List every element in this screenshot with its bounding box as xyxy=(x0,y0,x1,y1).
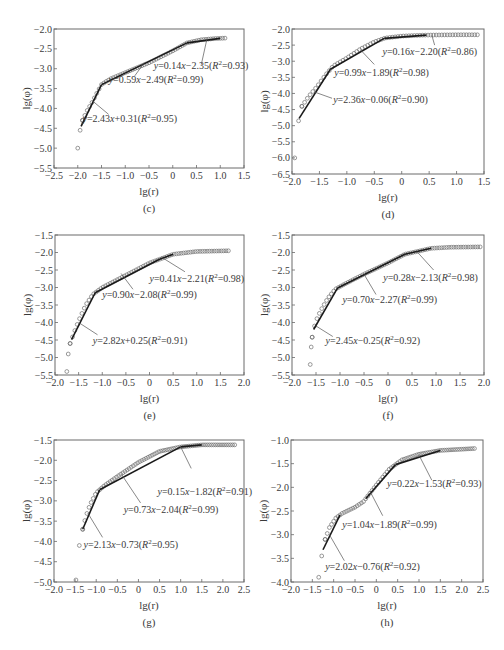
x-tick-label: 1.5 xyxy=(238,170,251,181)
data-point xyxy=(74,578,78,582)
fit-lines: y=2.82x+0.25(R2=0.91)y=0.90x−2.08(R2=0.9… xyxy=(72,254,245,346)
fit-equation-label: y=0.41x−2.21(R2=0.98) xyxy=(149,272,245,285)
fit-equation-label: y=0.73x−2.04(R2=0.99) xyxy=(123,503,219,516)
x-tick-label: −0.5 xyxy=(117,377,135,388)
x-tick-label: 0 xyxy=(147,377,152,388)
y-tick-label: −5.0 xyxy=(35,352,53,363)
y-tick-label: −4.5 xyxy=(34,556,52,567)
data-points xyxy=(317,447,477,580)
fit-equation-label: y=2.82x+0.25(R2=0.91) xyxy=(92,334,188,347)
y-tick-label: −4.0 xyxy=(271,577,289,588)
data-points xyxy=(65,249,230,374)
y-tick-label: −2.5 xyxy=(34,43,52,54)
y-tick-label: −4.5 xyxy=(35,335,53,346)
x-axis-ticks: −2.0−1.5−1.0−0.500.51.01.52.02.5 xyxy=(282,579,489,595)
data-point xyxy=(227,249,231,253)
data-point xyxy=(310,335,314,339)
fit-line-1 xyxy=(72,293,96,340)
fit-lines: y=2.36x−0.06(R2=0.90)y=0.99x−1.89(R2=0.9… xyxy=(299,35,477,118)
data-point xyxy=(308,93,312,97)
y-tick-label: −2.0 xyxy=(272,24,290,35)
y-tick-label: −1.5 xyxy=(272,230,290,241)
x-tick-label: 1.0 xyxy=(450,176,463,187)
y-tick-label: −5.5 xyxy=(272,370,290,381)
x-axis-label: lg(r) xyxy=(140,392,160,405)
y-tick-label: −3.5 xyxy=(271,553,289,564)
leader-line xyxy=(88,513,103,537)
y-tick-label: −5.0 xyxy=(272,352,290,363)
fit-lines: y=2.02x−0.76(R2=0.92)y=1.04x−1.89(R2=0.9… xyxy=(323,450,482,573)
x-tick-label: 2.0 xyxy=(455,584,468,595)
y-tick-label: −3.0 xyxy=(271,529,289,540)
x-tick-label: −1.5 xyxy=(307,377,325,388)
leader-line xyxy=(417,251,434,270)
x-tick-label: 1.0 xyxy=(174,584,187,595)
fit-lines: y=2.45x−0.25(R2=0.92)y=0.70x−2.27(R2=0.9… xyxy=(314,248,478,346)
x-tick-label: −0.5 xyxy=(346,584,364,595)
fit-equation-label: y=2.43x+0.31(R2=0.95) xyxy=(82,112,178,125)
y-tick-label: −3.5 xyxy=(34,516,52,527)
fit-equation-label: y=0.14x−2.35(R2=0.93) xyxy=(153,59,249,72)
chart-panel-h: −2.0−1.5−1.0−0.500.51.01.52.02.5−1.0−1.5… xyxy=(257,435,489,630)
x-axis-label: lg(r) xyxy=(139,599,159,612)
y-tick-label: −1.5 xyxy=(34,435,52,446)
data-point xyxy=(78,128,82,132)
data-point xyxy=(68,342,72,346)
plot-frame xyxy=(54,29,244,168)
x-tick-label: −1.0 xyxy=(331,377,349,388)
panel-caption: (f) xyxy=(383,409,394,422)
data-point xyxy=(323,538,327,542)
data-points xyxy=(308,245,482,366)
leader-line xyxy=(122,474,141,502)
chart-panel-c: −2.5−2.0−1.5−1.0−0.500.51.01.5−2.0−2.5−3… xyxy=(20,24,250,216)
y-tick-label: −2.0 xyxy=(271,482,289,493)
y-tick-label: −4.0 xyxy=(34,536,52,547)
fit-equation-label: y=0.70x−2.27(R2=0.99) xyxy=(341,293,437,306)
x-tick-label: 1.0 xyxy=(430,377,443,388)
y-tick-label: −1.0 xyxy=(271,435,289,446)
data-point xyxy=(308,363,312,367)
y-tick-label: −4.0 xyxy=(272,317,290,328)
x-tick-label: 0 xyxy=(374,584,379,595)
y-tick-label: −4.5 xyxy=(272,104,290,115)
data-point xyxy=(77,544,81,548)
y-tick-label: −3.0 xyxy=(34,63,52,74)
data-point xyxy=(300,104,304,108)
y-axis-label: lg(φ) xyxy=(20,500,33,523)
data-point xyxy=(320,554,324,558)
leader-line xyxy=(161,257,185,272)
leader-line xyxy=(181,447,192,469)
y-tick-label: −3.0 xyxy=(35,282,53,293)
x-tick-label: 0.5 xyxy=(153,584,166,595)
y-tick-label: −1.5 xyxy=(271,458,289,469)
x-tick-label: 1.5 xyxy=(454,377,467,388)
x-tick-label: 1.5 xyxy=(434,584,447,595)
chart-panel-f: −2.0−1.5−1.0−0.500.51.01.52.0−1.5−2.0−2.… xyxy=(258,230,490,423)
y-tick-label: −3.5 xyxy=(35,300,53,311)
y-tick-label: −5.5 xyxy=(272,136,290,147)
y-tick-label: −3.5 xyxy=(34,83,52,94)
x-axis-ticks: −2.0−1.5−1.0−0.500.51.01.52.0 xyxy=(46,372,250,388)
data-point xyxy=(476,33,480,37)
x-tick-label: −2.0 xyxy=(69,170,87,181)
x-tick-label: −1.0 xyxy=(116,170,134,181)
x-tick-label: 1.5 xyxy=(214,377,227,388)
fit-line-1 xyxy=(83,490,100,529)
x-tick-label: 2.5 xyxy=(238,584,251,595)
x-tick-label: 1.0 xyxy=(191,377,204,388)
chart-panel-g: −2.0−1.5−1.0−0.500.51.01.52.02.5−1.5−2.0… xyxy=(20,435,252,630)
y-tick-label: −5.0 xyxy=(34,577,52,588)
fit-equation-label: y=0.22x−1.53(R2=0.93) xyxy=(386,477,482,490)
fit-equation-label: y=0.99x−1.89(R2=0.98) xyxy=(333,66,429,79)
x-tick-label: −0.5 xyxy=(140,170,158,181)
x-tick-label: −1.5 xyxy=(310,176,328,187)
x-tick-label: 2.0 xyxy=(238,377,251,388)
y-tick-label: −2.0 xyxy=(35,247,53,258)
fit-lines: y=2.43x+0.31(R2=0.95)y=0.59x−2.49(R2=0.9… xyxy=(81,38,248,126)
fit-line-3 xyxy=(181,445,202,447)
x-axis-label: lg(r) xyxy=(378,191,398,204)
x-tick-label: 1.5 xyxy=(196,584,209,595)
x-axis-ticks: −2.0−1.5−1.0−0.500.51.01.52.0 xyxy=(283,372,490,388)
data-point xyxy=(89,501,93,505)
data-point xyxy=(311,90,315,94)
